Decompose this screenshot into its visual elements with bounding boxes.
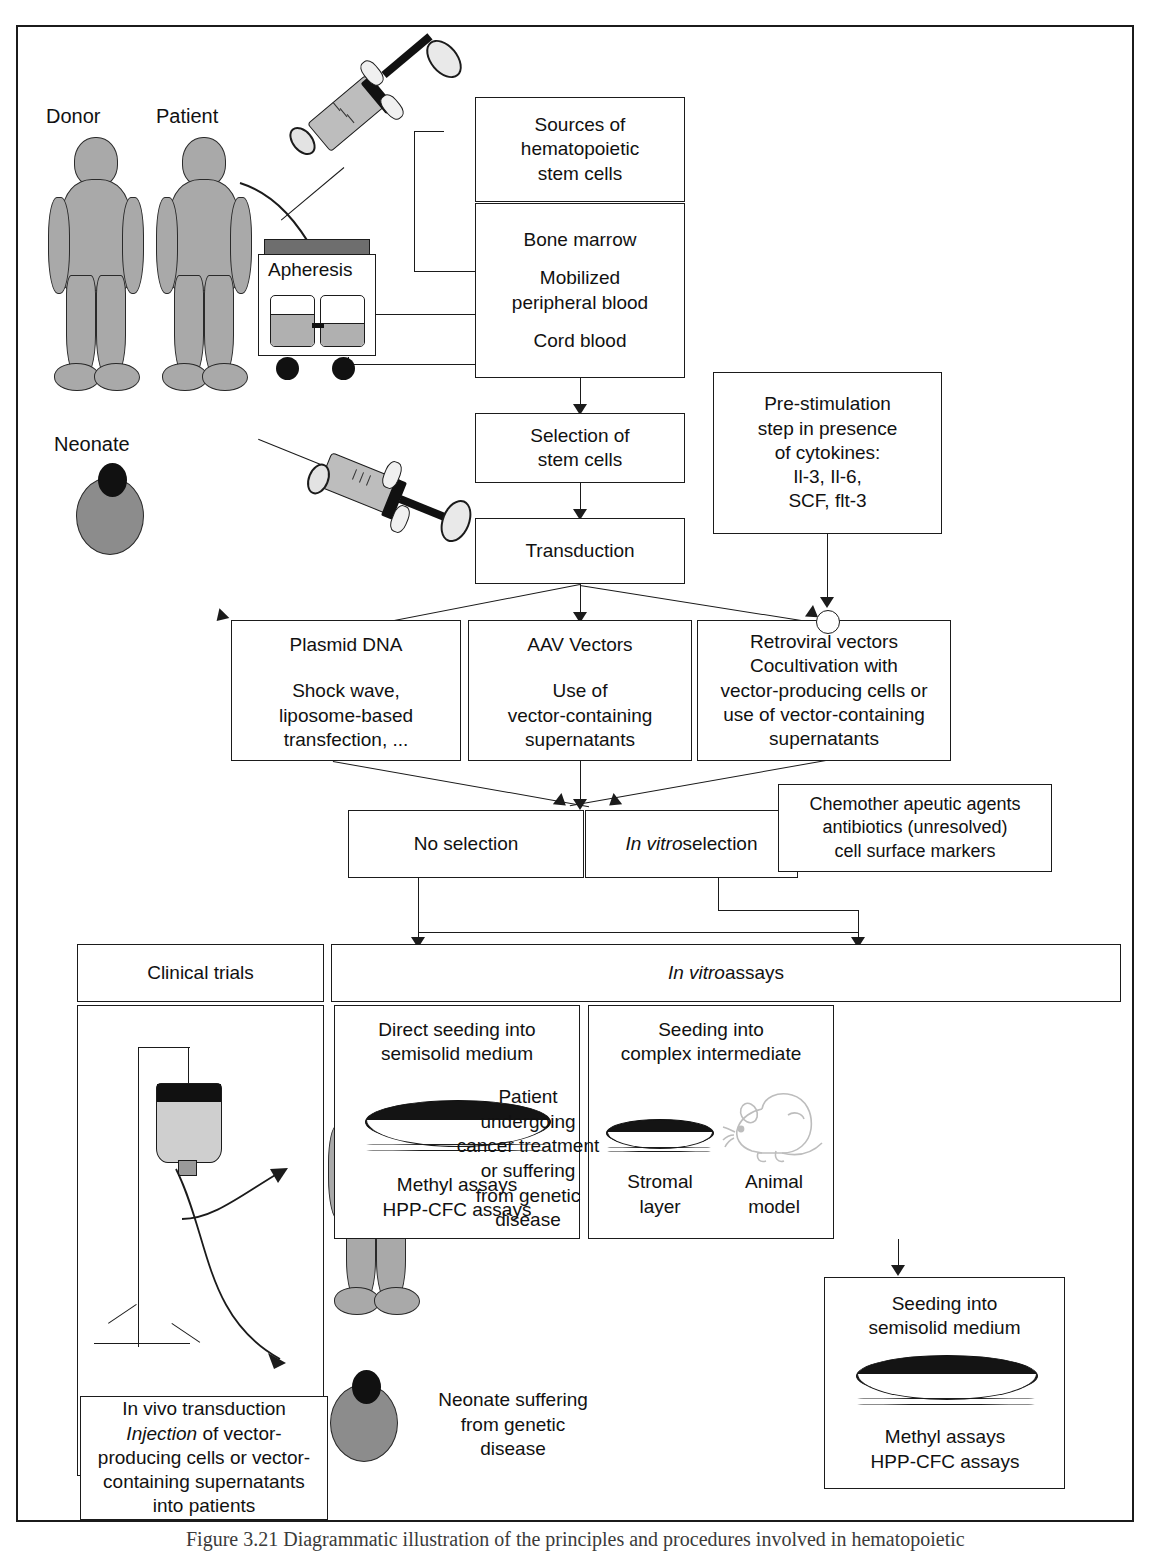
apheresis-label: Apheresis xyxy=(268,259,353,281)
box-in-vitro-assays-header: In vitro assays xyxy=(331,944,1121,1002)
figure-caption: Figure 3.21 Diagrammatic illustration of… xyxy=(186,1528,965,1551)
text-stromal-layer: Stromal layer xyxy=(610,1170,710,1219)
box-sources: Sources of hematopoietic stem cells xyxy=(475,97,685,202)
box-sources-list: Bone marrow Mobilized peripheral blood C… xyxy=(475,203,685,378)
box-selection-markers: Chemother apeutic agents antibiotics (un… xyxy=(778,784,1052,872)
apheresis-machine: Apheresis xyxy=(258,239,378,384)
label-patient: Patient xyxy=(156,105,218,128)
box-pre-stimulation: Pre-stimulation step in presence of cyto… xyxy=(713,372,942,534)
syringe-top-icon xyxy=(280,49,460,189)
label-donor: Donor xyxy=(46,105,100,128)
text-animal-model: Animal model xyxy=(724,1170,824,1219)
patient-figure xyxy=(148,137,258,397)
syringe-middle-icon xyxy=(262,425,462,555)
box-aav-vectors: AAV Vectors Use of vector-containing sup… xyxy=(468,620,692,761)
junction-circle xyxy=(816,610,840,634)
donor-figure xyxy=(40,137,150,397)
box-no-selection: No selection xyxy=(348,810,584,878)
box-retroviral-vectors: Retroviral vectors Cocultivation with ve… xyxy=(697,620,951,761)
petri-dish-semisolid xyxy=(856,1355,1036,1415)
mouse-icon xyxy=(718,1085,828,1167)
box-in-vivo-transduction: In vivo transduction Injection of vector… xyxy=(80,1396,328,1520)
tube-to-neonate xyxy=(174,1167,344,1385)
box-transduction: Transduction xyxy=(475,518,685,584)
text-seeding-semisolid-assays: Methyl assays HPP-CFC assays xyxy=(838,1425,1052,1474)
box-selection-of-stem-cells: Selection of stem cells xyxy=(475,413,685,483)
neonate-figure xyxy=(76,463,142,555)
box-plasmid-dna: Plasmid DNA Shock wave, liposome-based t… xyxy=(231,620,461,761)
box-in-vitro-selection: In vitro selection xyxy=(585,810,798,878)
figure-frame: Donor Patient Neonate xyxy=(16,25,1134,1522)
box-clinical-trials-header: Clinical trials xyxy=(77,944,324,1002)
text-neonate-outcome: Neonate suffering from genetic disease xyxy=(408,1388,618,1462)
label-neonate: Neonate xyxy=(54,433,130,456)
text-direct-seeding-assays: Methyl assays HPP-CFC assays xyxy=(348,1173,566,1222)
